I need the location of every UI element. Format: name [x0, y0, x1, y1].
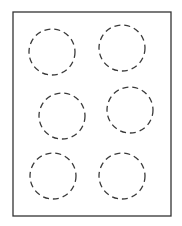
background	[0, 0, 182, 226]
diagram-canvas	[0, 0, 182, 226]
